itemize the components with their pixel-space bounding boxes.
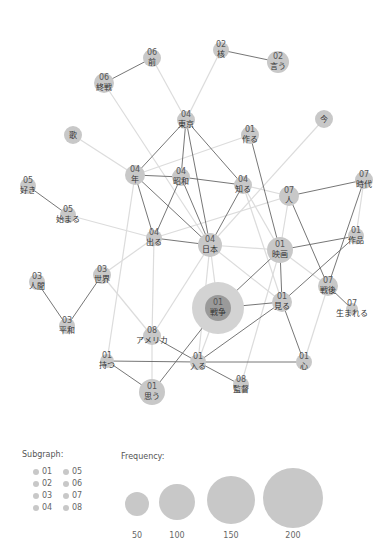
node-word-label: 入る [190,362,206,371]
node-subgraph-label: 08 [236,375,246,384]
node-subgraph-label: 08 [147,326,157,335]
node-word-label: 心 [300,362,308,371]
edge-uta-nen [73,135,135,175]
node-subgraph-label: 03 [62,316,72,325]
subgraph-legend-label: 05 [72,467,82,476]
subgraph-legend-item-01: 01 [33,467,63,476]
edge-tokyo-shiru [186,120,243,185]
node-umareru: 07生まれる [336,299,368,318]
node-subgraph-label: 01 [275,240,285,249]
node-word-label: 出る [146,237,162,247]
node-heiwa: 03平和 [59,316,75,335]
edge-hajimaru-deru [68,215,154,238]
node-ningen: 03人間 [29,272,45,291]
node-kokoro: 01心 [296,352,312,371]
subgraph-legend-item-08: 08 [63,503,93,512]
subgraph-legend-title: Subgraph: [22,450,112,459]
node-word-label: 平和 [59,326,75,335]
node-subgraph-label: 03 [97,265,107,274]
edge-showa-shiru [181,177,243,185]
co-occurrence-network: 06前06終戦02核02言う04東京歌01作る今04年04昭和04知る05好き0… [0,0,392,430]
node-suki: 05好き [20,176,36,195]
node-word-label: 東京 [178,119,194,129]
subgraph-legend-item-03: 03 [33,491,63,500]
node-omou: 01思う [139,379,165,405]
node-subgraph-label: 02 [216,40,226,49]
subgraph-legend-label: 04 [42,503,52,512]
frequency-circle-50 [125,492,149,516]
frequency-circle-200 [263,468,323,528]
node-motsu: 01持つ [99,351,115,370]
node-sakuhin: 01作品 [348,226,364,245]
nodes: 06前06終戦02核02言う04東京歌01作る今04年04昭和04知る05好き0… [20,40,373,405]
node-subgraph-label: 06 [147,48,157,57]
subgraph-dot-icon [33,493,39,499]
node-hajimaru: 05始まる [56,205,80,224]
node-tokyo: 04東京 [177,110,195,129]
node-eiga: 01映画 [267,237,293,263]
node-subgraph-label: 01 [299,352,309,361]
node-showa: 04昭和 [172,167,190,186]
node-nen: 04年 [125,165,145,185]
subgraph-legend: Subgraph: 0105020603070408 [22,450,112,512]
subgraph-legend-label: 08 [72,503,82,512]
frequency-label-100: 100 [157,531,197,540]
node-word-label: 時代 [356,179,372,189]
node-word-label: 始まる [56,214,80,224]
subgraph-legend-label: 02 [42,479,52,488]
edge-hito-sengo [289,196,328,286]
node-word-label: 作品 [348,235,364,245]
weak-edges [68,50,364,392]
node-sekai: 03世界 [93,265,111,284]
node-word-label: 歌 [69,130,77,140]
node-word-label: 作る [242,134,258,144]
node-word-label: 思う [144,392,160,401]
node-word-label: 人間 [29,282,45,291]
node-word-label: 終戦 [96,82,112,92]
node-mae: 06前 [143,48,161,67]
subgraph-legend-item-05: 05 [63,467,93,476]
edge-hito-jidai [289,180,364,196]
frequency-label-200: 200 [273,531,313,540]
node-subgraph-label: 02 [273,52,283,61]
node-subgraph-label: 03 [32,272,42,281]
node-subgraph-label: 04 [130,165,140,174]
subgraph-legend-item-04: 04 [33,503,63,512]
node-word-label: 世界 [94,274,110,284]
node-iu: 02言う [267,51,289,73]
node-word-label: 今 [320,114,328,124]
node-word-label: 核 [217,49,225,59]
subgraph-dot-icon [33,469,39,475]
frequency-legend: Frequency: 50100150200 [115,450,335,540]
edge-sakuhin-miru [282,236,356,302]
node-word-label: 日本 [202,244,218,254]
node-word-label: 映画 [272,249,288,259]
frequency-legend-title: Frequency: [121,452,164,461]
node-subgraph-label: 04 [176,167,186,176]
node-word-label: 年 [131,174,139,184]
node-ima: 今 [315,110,333,128]
node-subgraph-label: 07 [347,299,357,308]
node-subgraph-label: 06 [99,73,109,82]
node-subgraph-label: 04 [205,235,215,244]
node-subgraph-label: 07 [359,170,369,179]
frequency-label-150: 150 [211,531,251,540]
node-subgraph-label: 01 [147,382,157,391]
node-subgraph-label: 04 [149,228,159,237]
subgraph-legend-label: 06 [72,479,82,488]
node-uta: 歌 [64,126,82,144]
node-word-label: 生まれる [336,308,368,318]
frequency-circle-150 [207,476,255,524]
node-word-label: 好き [20,185,36,195]
node-kaku: 02核 [213,40,229,59]
subgraph-dot-icon [33,481,39,487]
node-subgraph-label: 04 [181,110,191,119]
subgraph-legend-item-07: 07 [63,491,93,500]
node-sengo: 07戦後 [318,276,338,296]
node-word-label: 知る [235,184,251,194]
node-word-label: 昭和 [173,177,189,186]
node-subgraph-label: 01 [351,226,361,235]
node-senso: 01戦争 [192,282,244,334]
node-subgraph-label: 01 [245,125,255,134]
node-subgraph-label: 07 [284,186,294,195]
